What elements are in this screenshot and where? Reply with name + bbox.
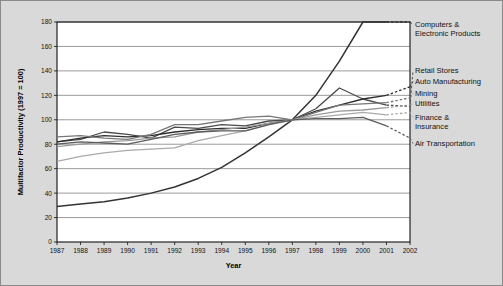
legend-label-utilities: Utilities bbox=[415, 99, 440, 108]
ytick-label: 140 bbox=[41, 67, 52, 74]
ytick-label: 0 bbox=[48, 238, 52, 245]
ytick-label: 160 bbox=[41, 43, 52, 50]
ytick-label: 20 bbox=[45, 214, 53, 221]
xtick-label: 2000 bbox=[356, 247, 371, 254]
xtick-label: 1990 bbox=[120, 247, 135, 254]
xtick-label: 1994 bbox=[214, 247, 229, 254]
legend-label-retail-stores: Retail Stores bbox=[415, 66, 459, 75]
y-axis-title: Multifactor Productivity (1997 = 100) bbox=[16, 68, 25, 195]
xtick-label: 1997 bbox=[285, 247, 300, 254]
xtick-label: 1996 bbox=[261, 247, 276, 254]
ytick-label: 60 bbox=[45, 165, 53, 172]
ytick-label: 120 bbox=[41, 92, 52, 99]
legend-label-finance-insurance: Insurance bbox=[415, 122, 448, 131]
multifactor-productivity-line-chart: 0204060801001201401601801987198819891990… bbox=[1, 1, 503, 286]
ytick-label: 100 bbox=[41, 116, 52, 123]
ytick-label: 40 bbox=[45, 190, 53, 197]
xtick-label: 1988 bbox=[73, 247, 88, 254]
xtick-label: 1993 bbox=[191, 247, 206, 254]
xtick-label: 1989 bbox=[97, 247, 112, 254]
xtick-label: 1999 bbox=[332, 247, 347, 254]
xtick-label: 1992 bbox=[167, 247, 182, 254]
ytick-label: 80 bbox=[45, 141, 53, 148]
legend-label-computers-electronic-products: Computers & bbox=[415, 20, 459, 29]
ytick-label: 180 bbox=[41, 18, 52, 25]
legend-label-air-transportation: Air Transportation bbox=[415, 139, 475, 148]
legend-label-mining: Mining bbox=[415, 89, 437, 98]
legend-label-finance-insurance: Finance & bbox=[415, 113, 449, 122]
xtick-label: 1987 bbox=[50, 247, 65, 254]
x-axis-title: Year bbox=[226, 261, 242, 270]
xtick-label: 2002 bbox=[403, 247, 418, 254]
xtick-label: 1991 bbox=[144, 247, 159, 254]
xtick-label: 2001 bbox=[379, 247, 394, 254]
legend-label-auto-manufacturing: Auto Manufacturing bbox=[415, 77, 481, 86]
legend-label-computers-electronic-products: Electronic Products bbox=[415, 29, 481, 38]
xtick-label: 1998 bbox=[309, 247, 324, 254]
xtick-label: 1995 bbox=[238, 247, 253, 254]
chart-figure: 0204060801001201401601801987198819891990… bbox=[0, 0, 503, 286]
